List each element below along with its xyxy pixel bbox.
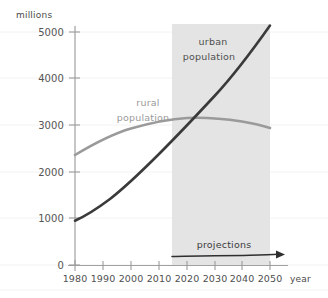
y-tick-label-4000: 4000 bbox=[38, 73, 64, 84]
y-tick-label-2000: 2000 bbox=[38, 167, 64, 178]
x-tick-label-1980: 1980 bbox=[63, 273, 88, 284]
x-tick-label-2040: 2040 bbox=[230, 273, 255, 284]
rural-series-label-line1: rural bbox=[136, 97, 159, 108]
projections-label: projections bbox=[197, 239, 252, 250]
urban-series-label-line2: population bbox=[183, 51, 236, 62]
rural-series-label-line2: population bbox=[117, 112, 170, 123]
x-axis-unit-label: year bbox=[290, 274, 311, 284]
y-tick-label-0: 0 bbox=[58, 260, 64, 271]
y-axis-unit-label: millions bbox=[16, 10, 52, 20]
y-tick-label-5000: 5000 bbox=[38, 27, 64, 38]
population-chart: millions year 5000 4000 3000 2000 1000 0… bbox=[0, 0, 328, 298]
x-tick-label-2050: 2050 bbox=[258, 273, 283, 284]
x-tick-label-2000: 2000 bbox=[119, 273, 144, 284]
y-tick-label-3000: 3000 bbox=[38, 120, 64, 131]
chart-svg: millions year 5000 4000 3000 2000 1000 0… bbox=[0, 0, 328, 298]
x-tick-label-2010: 2010 bbox=[147, 273, 172, 284]
x-tick-label-2020: 2020 bbox=[175, 273, 200, 284]
x-tick-label-2030: 2030 bbox=[203, 273, 228, 284]
urban-series-label-line1: urban bbox=[199, 36, 228, 47]
x-tick-label-1990: 1990 bbox=[91, 273, 116, 284]
y-tick-label-1000: 1000 bbox=[38, 213, 64, 224]
